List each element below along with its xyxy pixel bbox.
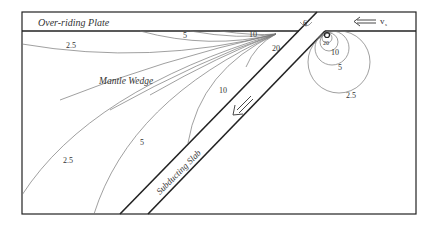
- contour-label: 2.5: [346, 91, 356, 100]
- contour-10-top: [190, 31, 276, 36]
- velocity-subscript: s: [385, 22, 387, 27]
- plate-velocity-arrow-icon: [354, 17, 376, 26]
- slab-motion-arrow-icon: [233, 96, 253, 115]
- contour-label: 6: [303, 19, 307, 28]
- contour-label: 5: [140, 138, 144, 147]
- contour-label: 10: [249, 30, 257, 39]
- contour-label: 5: [338, 63, 342, 72]
- slab-upper-boundary: [120, 12, 317, 214]
- contour-label: 20: [272, 44, 280, 53]
- slab-contour-circles: [308, 31, 370, 93]
- overriding-plate-label: Over-riding Plate: [38, 17, 110, 28]
- contour-label: 5: [183, 31, 187, 40]
- contour-label: 2.5: [63, 156, 73, 165]
- circle-2-5: [308, 31, 370, 93]
- subduction-diagram: Over-riding Plate Mantle Wedge Subductin…: [0, 0, 440, 226]
- contour-label: 10: [219, 86, 227, 95]
- contour-label: 20: [323, 40, 329, 46]
- contour-label: 2.5: [66, 41, 76, 50]
- contour-label: 10: [331, 48, 339, 57]
- mantle-wedge-label: Mantle Wedge: [98, 76, 153, 86]
